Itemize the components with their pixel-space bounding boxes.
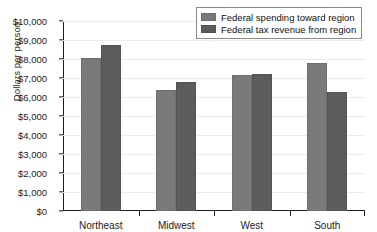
bar-northeast-series1 — [101, 45, 121, 211]
legend-item-spending: Federal spending toward region — [201, 11, 356, 23]
y-tick-mark — [59, 39, 64, 40]
plot-area: $0$1,000$2,000$3,000$4,000$5,000$6,000$7… — [63, 21, 365, 211]
x-tick-mark — [214, 211, 215, 216]
bar-west-series0 — [232, 75, 252, 211]
bar-midwest-series0 — [156, 90, 176, 211]
x-tick-label-south: South — [282, 220, 372, 231]
legend: Federal spending toward region Federal t… — [196, 7, 362, 39]
bar-south-series1 — [327, 92, 347, 211]
bar-northeast-series0 — [81, 58, 101, 211]
y-tick-mark — [59, 210, 64, 211]
legend-swatch-tax-revenue — [201, 25, 216, 33]
y-tick-label: $3,000 — [0, 149, 47, 160]
y-tick-label: $9,000 — [0, 35, 47, 46]
bar-chart: Dollars per person $0$1,000$2,000$3,000$… — [0, 0, 377, 232]
y-tick-mark — [59, 134, 64, 135]
x-tick-mark — [364, 211, 365, 216]
y-tick-mark — [59, 96, 64, 97]
y-tick-label: $8,000 — [0, 54, 47, 65]
y-tick-label: $10,000 — [0, 16, 47, 27]
y-tick-label: $4,000 — [0, 130, 47, 141]
bar-south-series0 — [307, 63, 327, 211]
legend-item-tax-revenue: Federal tax revenue from region — [201, 23, 356, 35]
y-tick-label: $1,000 — [0, 187, 47, 198]
y-tick-label: $5,000 — [0, 111, 47, 122]
y-tick-mark — [59, 20, 64, 21]
y-tick-label: $7,000 — [0, 73, 47, 84]
x-tick-mark — [290, 211, 291, 216]
y-tick-label: $0 — [0, 206, 47, 217]
legend-swatch-spending — [201, 13, 216, 21]
y-tick-mark — [59, 115, 64, 116]
legend-label-spending: Federal spending toward region — [221, 12, 355, 23]
y-tick-mark — [59, 191, 64, 192]
y-tick-label: $6,000 — [0, 92, 47, 103]
gridline — [63, 40, 365, 41]
bar-midwest-series1 — [176, 82, 196, 211]
y-tick-mark — [59, 153, 64, 154]
y-tick-label: $2,000 — [0, 168, 47, 179]
y-tick-mark — [59, 172, 64, 173]
legend-label-tax-revenue: Federal tax revenue from region — [221, 24, 356, 35]
y-tick-mark — [59, 77, 64, 78]
bar-west-series1 — [252, 74, 272, 211]
x-tick-mark — [139, 211, 140, 216]
y-tick-mark — [59, 58, 64, 59]
